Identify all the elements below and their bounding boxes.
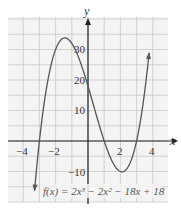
y-tick-label: −10 [68,166,86,178]
function-graph: x y −4 −2 2 4 30 20 10 −10 f(x) = 2x³ − … [0,0,181,213]
x-tick-label: −4 [16,145,28,157]
y-tick-label: 30 [74,43,86,55]
x-axis-label: x [169,134,176,148]
x-tick-label: 4 [149,145,155,157]
y-tick-label: 20 [74,74,86,86]
y-axis-label: y [83,4,90,18]
function-label: f(x) = 2x³ − 2x² − 18x + 18 [43,185,165,198]
x-tick-label: 2 [117,145,123,157]
y-tick-label: 10 [74,104,86,116]
x-tick-label: −2 [48,145,60,157]
